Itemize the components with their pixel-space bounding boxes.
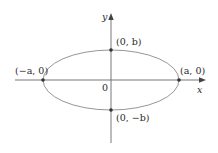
x-axis-arrow-icon	[199, 77, 206, 82]
y-axis	[108, 13, 113, 143]
point-left-label: (−a, 0)	[15, 65, 48, 76]
x-axis-label: x	[197, 84, 203, 95]
y-axis-arrow-icon	[108, 13, 113, 20]
point-right	[177, 78, 181, 82]
y-axis-label: y	[101, 11, 108, 22]
point-right-label: (a, 0)	[180, 65, 205, 76]
point-top	[109, 48, 113, 52]
origin-label: 0	[102, 82, 108, 93]
point-bottom-label: (0, −b)	[116, 112, 150, 123]
point-bottom	[109, 108, 113, 112]
point-top-label: (0, b)	[116, 36, 142, 47]
point-left	[41, 78, 45, 82]
ellipse-diagram: y x 0 (0, b) (0, −b) (−a, 0) (a, 0)	[0, 0, 218, 153]
